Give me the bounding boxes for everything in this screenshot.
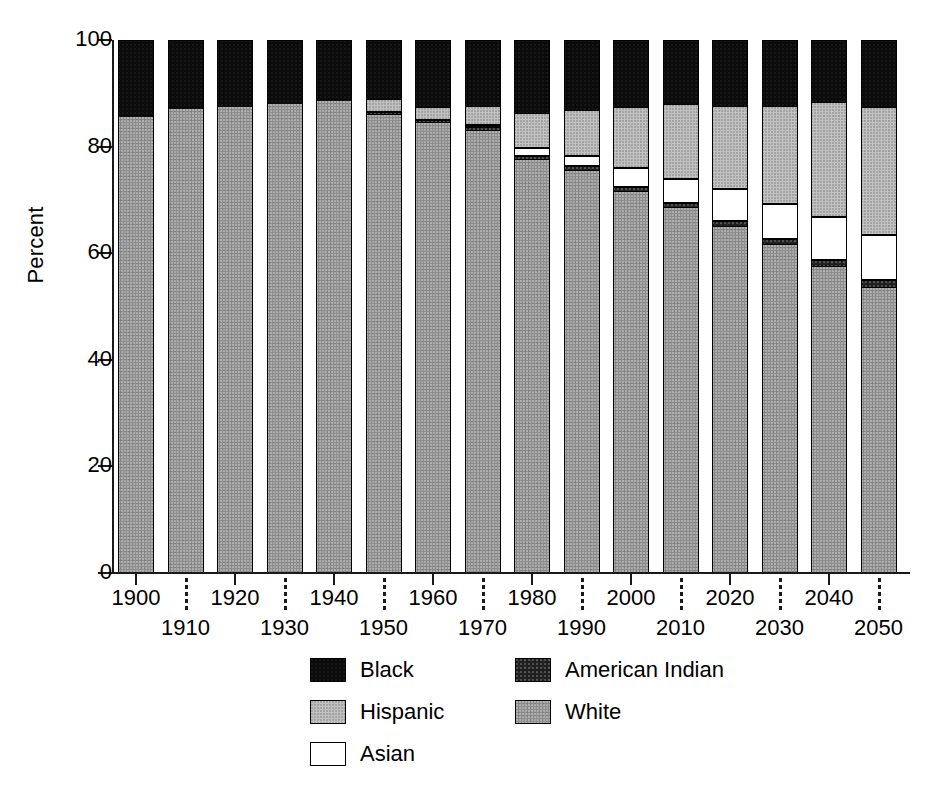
y-axis-tick-label-wrap: 80	[24, 135, 112, 157]
legend-row: BlackAmerican Indian	[310, 658, 830, 700]
x-axis-tick	[432, 574, 434, 585]
bar-segment-american-indian	[465, 127, 501, 130]
legend-item-white[interactable]: White	[515, 700, 621, 724]
legend-label: Black	[360, 658, 414, 682]
x-axis-label-1930: 1930	[247, 616, 323, 640]
y-axis-tick-label-wrap: 60	[24, 241, 112, 263]
x-axis-label-2000: 2000	[593, 586, 669, 610]
x-axis-label-1980: 1980	[494, 586, 570, 610]
y-axis-tick-label-wrap: 20	[24, 454, 112, 476]
bar-segment-hispanic	[663, 104, 699, 179]
bar-segment-hispanic	[861, 107, 897, 235]
bar-segment-black	[366, 40, 402, 99]
bar-segment-american-indian	[811, 260, 847, 267]
legend-swatch-hispanic	[310, 700, 346, 724]
bar-segment-black	[267, 40, 303, 104]
x-axis-tick	[234, 574, 236, 585]
x-axis-tick-dotted	[482, 578, 485, 612]
bar-2010[interactable]	[663, 40, 699, 573]
bar-segment-american-indian	[415, 120, 451, 123]
bar-segment-american-indian	[762, 239, 798, 245]
bar-segment-black	[316, 40, 352, 101]
bar-segment-hispanic	[712, 106, 748, 189]
bar-segment-white	[217, 107, 253, 573]
bar-2030[interactable]	[762, 40, 798, 573]
x-axis-tick-dotted	[185, 578, 188, 612]
x-axis-tick	[630, 574, 632, 585]
bar-segment-black	[465, 40, 501, 106]
bar-1930[interactable]	[267, 40, 303, 573]
y-axis-tick-label-wrap: 40	[24, 348, 112, 370]
bar-segment-black	[415, 40, 451, 107]
bar-segment-black	[762, 40, 798, 106]
y-axis-tick-label: 0	[52, 561, 112, 583]
bar-1970[interactable]	[465, 40, 501, 573]
bar-1950[interactable]	[366, 40, 402, 573]
legend-row: Asian	[310, 742, 830, 784]
bar-segment-black	[217, 40, 253, 107]
x-axis-tick-dotted	[383, 578, 386, 612]
bar-segment-american-indian	[712, 221, 748, 227]
y-axis-tick-label: 40	[52, 348, 112, 370]
x-axis-label-2040: 2040	[791, 586, 867, 610]
legend-swatch-white	[515, 700, 551, 724]
x-axis-label-1910: 1910	[148, 616, 224, 640]
legend-item-hispanic[interactable]: Hispanic	[310, 700, 444, 724]
bar-1920[interactable]	[217, 40, 253, 573]
bar-2050[interactable]	[861, 40, 897, 573]
bar-segment-white	[415, 123, 451, 573]
bar-2000[interactable]	[613, 40, 649, 573]
bar-segment-asian	[613, 168, 649, 187]
bar-segment-american-indian	[564, 166, 600, 170]
bar-segment-black	[811, 40, 847, 102]
bar-segment-white	[316, 101, 352, 573]
bar-1960[interactable]	[415, 40, 451, 573]
bar-1910[interactable]	[168, 40, 204, 573]
bar-1940[interactable]	[316, 40, 352, 573]
y-axis-tick-label-wrap: 0	[24, 561, 112, 583]
chart-legend: BlackAmerican IndianHispanicWhiteAsian	[310, 658, 830, 784]
bar-segment-hispanic	[465, 106, 501, 125]
bar-segment-black	[613, 40, 649, 107]
x-axis-label-2020: 2020	[692, 586, 768, 610]
legend-item-american-indian[interactable]: American Indian	[515, 658, 724, 682]
bar-1980[interactable]	[514, 40, 550, 573]
bar-1990[interactable]	[564, 40, 600, 573]
x-axis-label-1900: 1900	[98, 586, 174, 610]
bar-segment-asian	[861, 235, 897, 280]
plot-area	[112, 40, 910, 573]
x-axis-label-2050: 2050	[841, 616, 917, 640]
x-axis-tick	[729, 574, 731, 585]
legend-item-black[interactable]: Black	[310, 658, 414, 682]
bar-segment-white	[465, 131, 501, 573]
bar-2040[interactable]	[811, 40, 847, 573]
x-axis-line	[112, 572, 910, 574]
bar-segment-white	[811, 267, 847, 573]
bar-segment-black	[168, 40, 204, 109]
bar-segment-black	[118, 40, 154, 117]
legend-label: Hispanic	[360, 700, 444, 724]
bar-segment-american-indian	[861, 280, 897, 287]
legend-label: American Indian	[565, 658, 724, 682]
stacked-bar-chart: Percent 020406080100 1900191019201930194…	[0, 0, 927, 798]
legend-item-asian[interactable]: Asian	[310, 742, 415, 766]
x-axis-tick-dotted	[779, 578, 782, 612]
bar-segment-american-indian	[514, 156, 550, 160]
bar-2020[interactable]	[712, 40, 748, 573]
bar-segment-asian	[762, 204, 798, 239]
bar-segment-american-indian	[613, 187, 649, 192]
bar-segment-asian	[712, 189, 748, 221]
bar-segment-white	[267, 104, 303, 573]
y-axis-tick-label-wrap: 100	[24, 28, 112, 50]
bar-segment-asian	[465, 125, 501, 128]
bar-1900[interactable]	[118, 40, 154, 573]
bar-segment-american-indian	[366, 112, 402, 115]
x-axis-label-1940: 1940	[296, 586, 372, 610]
legend-swatch-american-indian	[515, 658, 551, 682]
bar-segment-white	[564, 171, 600, 573]
x-axis-label-1970: 1970	[445, 616, 521, 640]
x-axis-tick-dotted	[878, 578, 881, 612]
bar-segment-white	[613, 192, 649, 573]
y-axis-tick-label: 100	[52, 28, 112, 50]
bar-segment-black	[663, 40, 699, 104]
